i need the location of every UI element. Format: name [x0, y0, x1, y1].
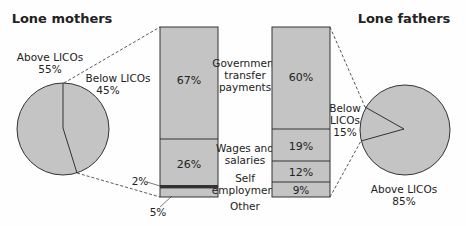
left-below-pct: 45% — [96, 84, 119, 96]
left-wages-pct: 26% — [177, 158, 201, 171]
right-self-pct: 12% — [289, 166, 313, 179]
title-lone-mothers: Lone mothers — [12, 11, 113, 26]
left-self-pct: 2% — [132, 175, 149, 187]
title-lone-fathers: Lone fathers — [358, 11, 451, 26]
svg-text:Government: Government — [212, 57, 277, 69]
right-above-pct: 85% — [392, 195, 415, 207]
svg-text:payments: payments — [219, 81, 271, 93]
svg-text:Wages and: Wages and — [216, 142, 274, 154]
pie-lone-mothers — [17, 83, 109, 175]
right-below-label-2: LICOs — [330, 114, 360, 126]
chart-root: Lone mothers Lone fathers Above LICOs 55… — [0, 0, 466, 226]
left-above-label: Above LICOs — [17, 51, 83, 63]
right-below-pct: 15% — [333, 126, 356, 138]
left-below-label: Below LICOs — [86, 72, 151, 84]
svg-text:salaries: salaries — [225, 154, 265, 166]
pie-lone-fathers — [360, 85, 450, 175]
right-other-pct: 9% — [293, 184, 310, 196]
bar-lone-mothers — [160, 27, 218, 197]
right-above-label: Above LICOs — [371, 183, 437, 195]
svg-text:employment: employment — [212, 184, 278, 196]
left-gov-pct: 67% — [177, 74, 201, 87]
category-labels: Government transfer payments Wages and s… — [212, 57, 278, 212]
right-gov-pct: 60% — [289, 71, 313, 84]
left-other-pct: 5% — [150, 206, 167, 218]
svg-text:Other: Other — [230, 200, 260, 212]
right-wages-pct: 19% — [289, 140, 313, 153]
svg-text:transfer: transfer — [224, 69, 266, 81]
left-above-pct: 55% — [38, 63, 61, 75]
svg-text:Self: Self — [235, 172, 255, 184]
chart-svg: Lone mothers Lone fathers Above LICOs 55… — [0, 0, 466, 226]
right-below-label-1: Below — [329, 102, 361, 114]
